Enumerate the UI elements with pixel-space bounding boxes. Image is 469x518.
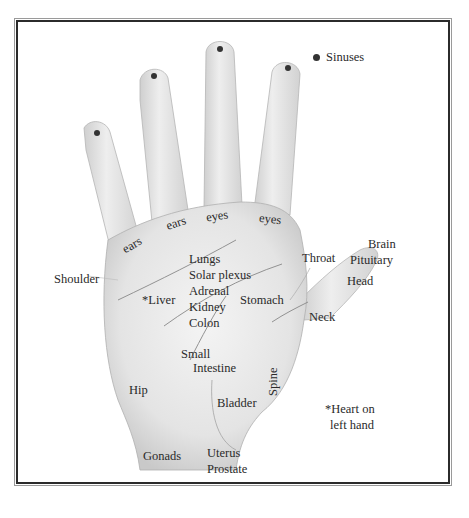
label-brain: Brain	[368, 237, 396, 251]
label-heart-note-2: left hand	[330, 418, 374, 432]
label-uterus: Uterus	[207, 446, 240, 460]
label-spine: Spine	[266, 368, 280, 396]
sinus-dot-index	[285, 65, 291, 71]
label-shoulder: Shoulder	[54, 272, 99, 286]
sinus-dot-pinky	[94, 130, 100, 136]
label-heart-note-1: *Heart on	[325, 402, 375, 416]
label-pituitary: Pituitary	[350, 253, 393, 267]
label-lungs: Lungs	[189, 252, 220, 266]
label-eyes-2: eyes	[258, 211, 282, 227]
ring-finger	[140, 69, 188, 222]
middle-finger	[204, 42, 242, 209]
sinus-dot-ring	[151, 73, 157, 79]
label-kidney: Kidney	[189, 300, 226, 314]
label-colon: Colon	[189, 316, 220, 330]
label-throat: Throat	[302, 251, 335, 265]
label-small: Small	[181, 347, 210, 361]
hand-illustration	[0, 0, 469, 518]
label-hip: Hip	[129, 383, 148, 397]
label-adrenal: Adrenal	[189, 284, 229, 298]
label-liver: *Liver	[142, 293, 175, 307]
index-finger	[254, 62, 300, 215]
label-neck: Neck	[309, 310, 335, 324]
label-head: Head	[347, 274, 373, 288]
label-gonads: Gonads	[143, 449, 181, 463]
sinus-dot-middle	[217, 46, 223, 52]
label-prostate: Prostate	[207, 462, 247, 476]
label-stomach: Stomach	[240, 293, 284, 307]
sinus-legend-dot	[313, 54, 320, 61]
sinus-legend-label: Sinuses	[326, 50, 364, 64]
label-bladder: Bladder	[217, 396, 257, 410]
label-solar-plexus: Solar plexus	[189, 268, 251, 282]
label-intestine: Intestine	[193, 361, 236, 375]
